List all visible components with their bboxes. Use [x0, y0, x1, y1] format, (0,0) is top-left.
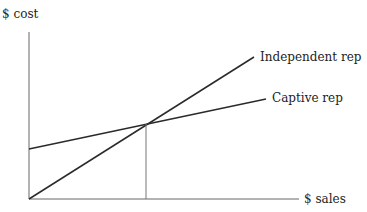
- cost-vs-sales-diagram: [0, 0, 367, 212]
- independent-rep-line: [29, 57, 254, 199]
- x-axis-label: $ sales: [304, 193, 346, 205]
- y-axis-label: $ cost: [2, 8, 38, 20]
- independent-rep-label: Independent rep: [260, 51, 361, 63]
- captive-rep-line: [29, 99, 266, 149]
- captive-rep-label: Captive rep: [272, 92, 343, 104]
